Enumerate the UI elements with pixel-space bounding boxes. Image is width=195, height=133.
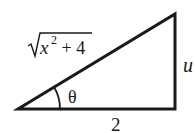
angle-arc [54,87,60,109]
triangle [18,14,175,109]
opposite-label: u [183,54,193,76]
right-triangle-diagram: x 2 + 4 u θ 2 [0,0,195,133]
adjacent-label: 2 [111,114,121,133]
hypotenuse-variable: x [39,37,49,58]
angle-label: θ [68,87,77,107]
hypotenuse-constant: + 4 [57,38,85,58]
hypotenuse-label: x 2 + 4 [28,33,92,58]
